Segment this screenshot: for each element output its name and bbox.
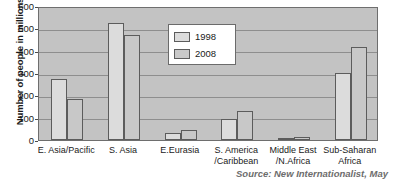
legend-item-2008: 2008: [174, 45, 235, 62]
bar-2008-middle-east-n-africa: [294, 137, 310, 140]
gridline: [39, 119, 377, 120]
bar-2008-s-asia: [124, 35, 140, 140]
bar-1998-s-america-caribbean: [221, 119, 237, 140]
bar-2008-s-america-caribbean: [237, 111, 253, 140]
bar-1998-s-asia: [108, 23, 124, 140]
legend-label-2008: 2008: [195, 49, 216, 59]
x-axis-label: Sub-Saharan Africa: [313, 145, 386, 166]
legend: 1998 2008: [168, 24, 236, 65]
bar-1998-sub-saharan-africa: [335, 73, 351, 140]
bar-2008-sub-saharan-africa: [351, 47, 367, 140]
y-axis-tick-label: 400: [4, 47, 34, 57]
bar-1998-e-eurasia: [165, 133, 181, 140]
source-note: Source: New Internationalist, May: [236, 168, 388, 179]
y-axis-tick-label: 100: [4, 114, 34, 124]
legend-item-1998: 1998: [174, 28, 235, 45]
y-axis-tick-label: 600: [4, 2, 34, 12]
bar-1998-middle-east-n-africa: [278, 138, 294, 140]
gridline: [39, 97, 377, 98]
legend-swatch-1998: [174, 32, 190, 42]
y-axis-tick-label: 300: [4, 69, 34, 79]
gridline: [39, 75, 377, 76]
chart-screenshot: Number of people in millions 01002003004…: [0, 0, 398, 179]
bar-2008-e-asia-pacific: [67, 99, 83, 140]
legend-swatch-2008: [174, 49, 190, 59]
y-axis-tick-mark: [35, 141, 38, 142]
bar-2008-e-eurasia: [181, 130, 197, 140]
bar-1998-e-asia-pacific: [51, 79, 67, 140]
y-axis-tick-label: 200: [4, 91, 34, 101]
legend-label-1998: 1998: [195, 32, 216, 42]
y-axis-tick-label: 500: [4, 24, 34, 34]
